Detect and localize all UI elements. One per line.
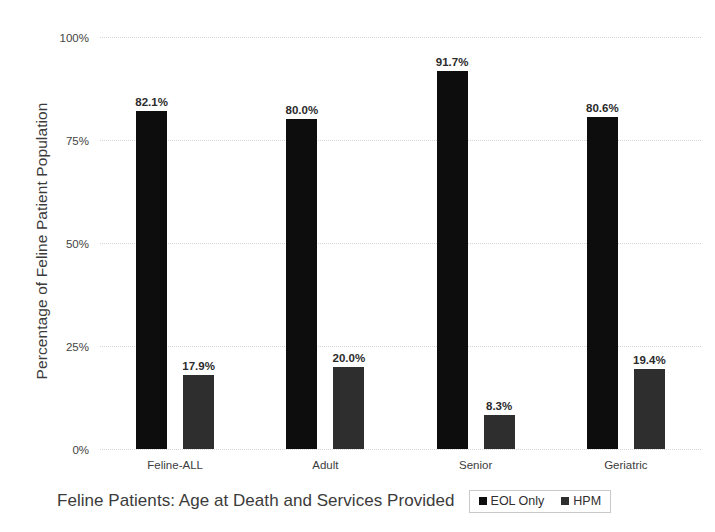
gridline: 100% [100,37,701,38]
x-axis-category-label: Feline-ALL [147,459,203,471]
bar-value-label: 17.9% [182,360,215,372]
bar-value-label: 80.6% [586,102,619,114]
x-axis-title: Feline Patients: Age at Death and Servic… [57,491,455,511]
y-axis-tick-label: 100% [29,32,89,44]
y-axis-tick-label: 25% [29,341,89,353]
x-axis-category-label: Geriatric [604,459,647,471]
bar-feline-all-hpm: 17.9% [183,375,214,449]
bar-geriatric-hpm: 19.4% [634,369,665,449]
y-axis-tick-label: 75% [29,135,89,147]
bar-adult-eol-only: 80.0% [286,119,317,449]
bar-chart-figure: Percentage of Feline Patient Population … [0,0,715,532]
y-axis-tick-label: 0% [29,444,89,456]
bar-senior-eol-only: 91.7% [437,71,468,449]
bar-geriatric-eol-only: 80.6% [587,117,618,449]
gridline: 0% [100,449,701,450]
x-axis-category-label: Senior [459,459,492,471]
bar-value-label: 91.7% [436,56,469,68]
legend-swatch-icon [561,497,569,505]
bar-value-label: 8.3% [486,400,512,412]
legend-label: HPM [573,494,601,508]
bar-value-label: 82.1% [135,96,168,108]
bar-value-label: 19.4% [633,354,666,366]
bar-value-label: 80.0% [286,104,319,116]
bar-adult-hpm: 20.0% [333,367,364,449]
x-axis-category-label: Adult [312,459,338,471]
legend-swatch-icon [479,497,487,505]
chart-footer: Feline Patients: Age at Death and Servic… [0,482,715,520]
bar-senior-hpm: 8.3% [484,415,515,449]
legend-label: EOL Only [491,494,545,508]
y-axis-tick-label: 50% [29,238,89,250]
legend-item[interactable]: HPM [561,494,601,508]
plot-area: 0%25%50%75%100%82.1%17.9%Feline-ALL80.0%… [100,37,701,449]
chart-legend: EOL OnlyHPM [469,490,612,513]
bar-feline-all-eol-only: 82.1% [136,111,167,449]
legend-item[interactable]: EOL Only [479,494,545,508]
bar-value-label: 20.0% [333,352,366,364]
